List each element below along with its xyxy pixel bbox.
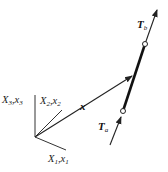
label-position-vector: x [79,100,86,112]
endpoint-b-circle [143,42,148,47]
label-x3: X3,x3 [1,94,23,107]
label-x1: X1,x1 [47,153,69,166]
traction-a-arrow [110,117,121,145]
endpoint-a-circle [121,109,126,114]
label-traction-a: Ta [98,120,109,134]
label-traction-b: Tb [137,18,148,32]
thick-segment [123,44,145,111]
axis-x1 [35,137,66,150]
diagram-canvas: X3,x3 X2,x2 X1,x1 x Ta Tb [0,0,168,172]
axis-x2 [35,110,62,137]
label-x2: X2,x2 [39,95,61,108]
